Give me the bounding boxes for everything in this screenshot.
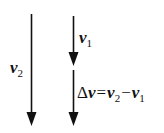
equals-sign: = xyxy=(95,83,107,102)
v2-subscript: 2 xyxy=(18,67,24,79)
minus-sign: − xyxy=(120,83,132,102)
delta-symbol: Δ xyxy=(77,83,88,102)
arrowhead-icon xyxy=(69,112,79,126)
v2-symbol: v xyxy=(10,58,18,77)
v1-subscript: 1 xyxy=(87,37,93,49)
vector-v2-arrow xyxy=(27,14,37,126)
label-v2: v2 xyxy=(10,59,23,76)
arrowhead-icon xyxy=(69,52,79,66)
eq-term1-subscript: 2 xyxy=(115,92,121,104)
eq-term1-symbol: v xyxy=(107,83,115,102)
arrowhead-icon xyxy=(27,112,37,126)
v1-symbol: v xyxy=(79,28,87,47)
equation-delta-v: Δv=v2−v1 xyxy=(77,84,145,101)
vector-v1-arrow xyxy=(69,16,79,66)
eq-term2-subscript: 1 xyxy=(139,92,145,104)
vector-diagram xyxy=(0,0,164,133)
label-v1: v1 xyxy=(79,29,92,46)
